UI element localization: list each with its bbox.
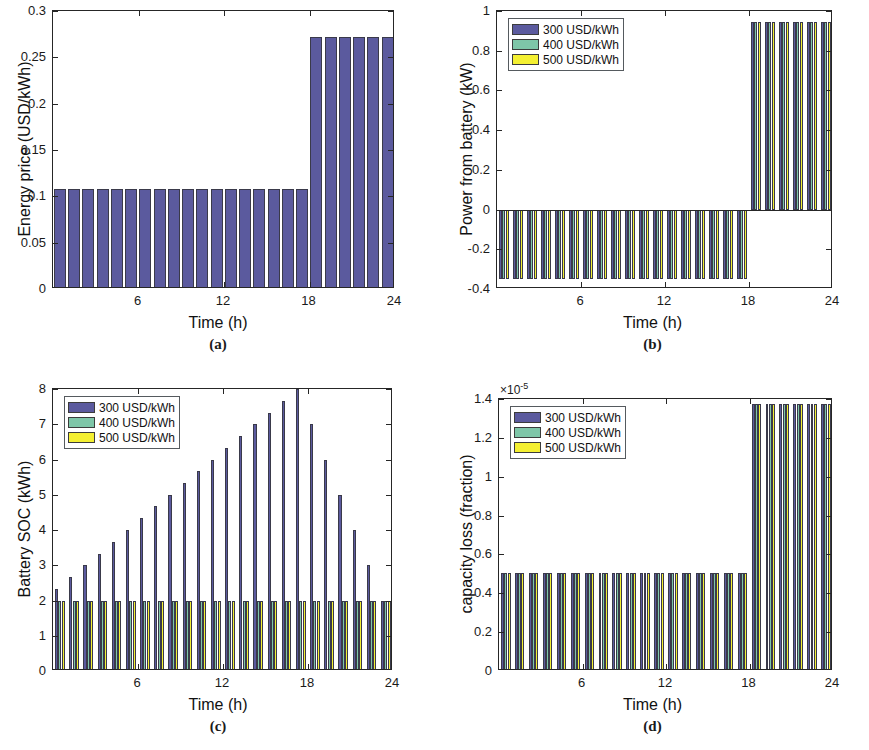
legend-swatch-400-icon [68,417,95,428]
xtick-mark-a-1 [224,282,225,287]
xtick-mark-b-0 [581,282,582,287]
ytick-mark-right-c-4 [386,530,391,531]
ytick-mark-a-2 [53,196,58,197]
xtick-label-c-0: 6 [133,675,140,690]
legend-entry-d-1[interactable]: 400 USD/kWh [514,425,621,440]
ytick-mark-right-c-3 [386,565,391,566]
bar-b-500-h10 [632,210,635,280]
legend-entry-b-2[interactable]: 500 USD/kWh [512,52,619,67]
ytick-mark-b-4 [497,130,502,131]
ytick-mark-d-7 [499,399,504,400]
ytick-mark-right-d-5 [826,477,831,478]
xtick-label-a-3: 24 [387,293,401,308]
ytick-mark-c-8 [53,389,58,390]
bar-b-500-h7 [590,210,593,280]
bar-d-500-h5 [563,573,566,670]
ytick-mark-b-1 [497,249,502,250]
figure-4-panel-grid: (a) 00.050.10.150.20.250.36121824Time (h… [0,0,869,750]
ytick-mark-right-c-1 [386,636,391,637]
bar-d-500-h2 [521,573,524,670]
bar-d-500-h11 [647,573,650,670]
bar-d-500-h3 [535,573,538,670]
xtick-mark-top-b-2 [749,11,750,16]
legend-entry-c-1[interactable]: 400 USD/kWh [68,415,175,430]
bar-b-500-h6 [576,210,579,280]
bar-d-500-h20 [772,404,775,670]
bar-b-500-h16 [716,210,719,280]
bar-d-500-h18 [744,573,747,670]
ytick-mark-d-6 [499,438,504,439]
bar-c-500-h18 [303,601,306,671]
bar-d-500-h1 [508,573,511,670]
ytick-mark-right-a-3 [388,150,393,151]
ytick-mark-right-c-5 [386,495,391,496]
bar-d-500-h22 [800,404,803,670]
bar-d-500-h14 [688,573,691,670]
bar-c-500-h19 [317,601,320,671]
xaxis-label-b: Time (h) [436,314,869,332]
xtick-mark-top-d-1 [666,399,667,404]
xtick-label-d-3: 24 [825,675,839,690]
legend-entry-c-0[interactable]: 300 USD/kWh [68,400,175,415]
bar-d-500-h4 [549,573,552,670]
legend-label-b-1: 400 USD/kWh [543,39,619,51]
bar-c-500-h2 [76,601,79,671]
bar-c-500-h6 [133,601,136,671]
ytick-mark-c-2 [53,601,58,602]
ytick-mark-right-a-6 [388,11,393,12]
ytick-mark-b-5 [497,90,502,91]
legend-swatch-300-icon [68,402,95,413]
xtick-mark-top-c-0 [138,389,139,394]
ytick-mark-right-a-1 [388,243,393,244]
xtick-mark-top-b-0 [581,11,582,16]
ytick-mark-right-c-6 [386,460,391,461]
legend-label-c-2: 500 USD/kWh [99,432,175,444]
ytick-mark-c-7 [53,424,58,425]
bar-d-500-h8 [605,573,608,670]
bar-c-500-h13 [232,601,235,671]
bar-b-500-h15 [702,210,705,280]
legend-swatch-300-icon [514,412,541,423]
panel-caption-a: (a) [0,336,436,353]
ytick-mark-right-b-4 [826,130,831,131]
bar-b-500-h18 [744,210,747,280]
legend-c: 300 USD/kWh400 USD/kWh500 USD/kWh [64,396,180,449]
plot-area-a [53,11,393,287]
xtick-mark-b-1 [665,282,666,287]
legend-d: 300 USD/kWh400 USD/kWh500 USD/kWh [510,406,626,459]
bar-a-300-h19 [310,37,322,288]
bar-c-500-h22 [359,601,362,671]
ytick-mark-a-4 [53,104,58,105]
bar-b-500-h11 [646,210,649,280]
legend-label-c-0: 300 USD/kWh [99,402,175,414]
ytick-mark-a-1 [53,243,58,244]
xtick-mark-d-2 [750,664,751,669]
bar-a-300-h5 [111,189,123,288]
ytick-mark-right-b-6 [826,51,831,52]
xtick-mark-top-d-0 [583,399,584,404]
legend-entry-d-2[interactable]: 500 USD/kWh [514,440,621,455]
bar-a-300-h8 [154,189,166,288]
xtick-label-b-3: 24 [825,293,839,308]
xtick-label-b-1: 12 [657,293,671,308]
bar-c-500-h14 [246,601,249,671]
xtick-mark-top-c-2 [308,389,309,394]
xtick-label-a-0: 6 [134,293,141,308]
legend-entry-b-0[interactable]: 300 USD/kWh [512,22,619,37]
legend-entry-c-2[interactable]: 500 USD/kWh [68,430,175,445]
yaxis-label-c: Battery SOC (kWh) [16,388,34,670]
ytick-mark-right-d-4 [826,516,831,517]
bar-b-500-h17 [730,210,733,280]
legend-entry-b-1[interactable]: 400 USD/kWh [512,37,619,52]
xtick-label-d-0: 6 [578,675,585,690]
ytick-mark-b-7 [497,11,502,12]
xtick-label-c-1: 12 [215,675,229,690]
bar-d-500-h15 [702,573,705,670]
legend-label-d-1: 400 USD/kWh [545,427,621,439]
ytick-mark-d-5 [499,477,504,478]
xtick-mark-top-a-2 [310,11,311,16]
legend-entry-d-0[interactable]: 300 USD/kWh [514,410,621,425]
ytick-mark-right-d-6 [826,438,831,439]
bar-d-500-h24 [828,404,831,670]
xtick-label-c-2: 18 [300,675,314,690]
